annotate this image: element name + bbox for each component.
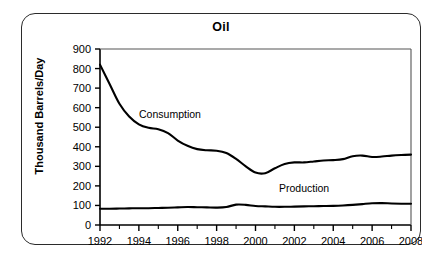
y-tick-label: 0 [85,219,91,231]
y-tick-label: 200 [73,180,91,192]
x-tick-label: 2008 [399,235,422,246]
y-tick-label: 600 [73,102,91,114]
series-label-production: Production [279,182,329,194]
plot-frame [100,49,411,225]
x-tick-label: 1994 [127,235,151,246]
y-tick-label: 500 [73,121,91,133]
x-tick-label: 2002 [282,235,306,246]
x-tick-label: 2006 [360,235,384,246]
y-tick-label: 700 [73,82,91,94]
x-tick-label: 2000 [243,235,267,246]
line-chart-plot: 0100200300400500600700800900 19921994199… [22,14,422,246]
y-tick-label: 400 [73,141,91,153]
x-tick-label: 2004 [321,235,345,246]
series-lines [100,65,411,209]
x-tick-label: 1996 [166,235,190,246]
chart-card: Oil Thousand Barrels/Day 010020030040050… [21,13,421,245]
x-axis-tick-labels: 199219941996199820002002200420062008 [88,235,422,246]
y-tick-label: 300 [73,160,91,172]
y-tick-label: 900 [73,43,91,55]
x-tick-label: 1992 [88,235,112,246]
x-tick-label: 1998 [204,235,228,246]
y-axis-tick-labels: 0100200300400500600700800900 [73,43,91,231]
x-axis-ticks [100,225,411,231]
series-line-production [100,203,411,209]
series-label-consumption: Consumption [139,108,201,120]
y-tick-label: 800 [73,63,91,75]
y-tick-label: 100 [73,199,91,211]
series-annotations: ConsumptionProduction [139,108,329,194]
